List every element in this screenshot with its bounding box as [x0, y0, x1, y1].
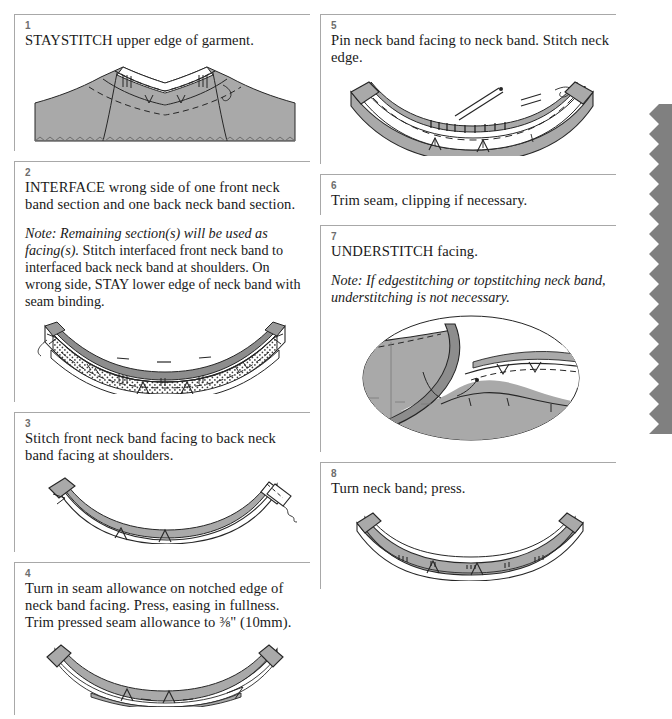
step-panel-3: 3 Stitch front neck band facing to back …	[14, 412, 310, 552]
step-instruction-text: Turn in seam allowance on notched edge o…	[25, 580, 304, 631]
step-note: Note: Remaining section(s) will be used …	[25, 225, 304, 310]
step-instruction-text: Trim seam, clipping if necessary.	[331, 192, 610, 209]
step-note: Note: If edgestitching or topstitching n…	[331, 272, 610, 306]
step-number: 2	[25, 167, 304, 178]
step-number: 3	[25, 418, 304, 429]
step-panel-2: 2 INTERFACE wrong side of one front neck…	[14, 161, 310, 402]
step-number: 1	[25, 20, 304, 31]
step-number: 7	[331, 231, 610, 242]
figure-turned-neck-band	[347, 503, 595, 581]
figure-understitch-detail-oval	[345, 312, 597, 444]
step-number: 4	[25, 568, 304, 579]
step-panel-7: 7 UNDERSTITCH facing. Note: If edgestitc…	[320, 225, 616, 452]
step-panel-8: 8 Turn neck band; press.	[320, 462, 616, 589]
right-column: 5 Pin neck band facing to neck band. Sti…	[320, 14, 616, 599]
step-instruction-text: Turn neck band; press.	[331, 480, 610, 497]
figure-interfaced-neck-band-curve	[31, 316, 299, 394]
figure-pinned-neck-band-facing	[335, 72, 607, 156]
step-number: 5	[331, 20, 610, 31]
step-panel-5: 5 Pin neck band facing to neck band. Sti…	[320, 14, 616, 164]
figure-pressed-seam-allowance-band	[31, 637, 299, 707]
step-instruction-text: INTERFACE wrong side of one front neck b…	[25, 179, 304, 213]
step-instruction-text: Pin neck band facing to neck band. Stitc…	[331, 32, 610, 66]
figure-neck-band-facing-joined	[29, 470, 301, 544]
step-panel-4: 4 Turn in seam allowance on notched edge…	[14, 562, 310, 715]
step-panel-6: 6 Trim seam, clipping if necessary.	[320, 174, 616, 215]
pinked-edge-strip	[645, 104, 672, 434]
step-panel-1: 1 STAYSTITCH upper edge of garment.	[14, 14, 310, 151]
left-column: 1 STAYSTITCH upper edge of garment.	[14, 14, 310, 719]
step-instruction-text: UNDERSTITCH facing.	[331, 243, 610, 260]
step-number: 6	[331, 180, 610, 191]
step-number: 8	[331, 468, 610, 479]
note-lead-text: Note: If edgestitching or topstitching n…	[331, 272, 606, 305]
step-instruction-text: Stitch front neck band facing to back ne…	[25, 430, 304, 464]
figure-garment-neckline-staystitch	[27, 55, 303, 143]
step-instruction-text: STAYSTITCH upper edge of garment.	[25, 32, 304, 49]
